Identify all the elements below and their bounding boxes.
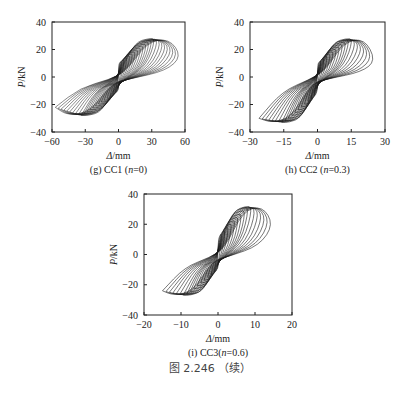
x-tick-label: 20 [287, 319, 297, 330]
hysteresis-loops [55, 39, 178, 116]
hysteresis-loops [163, 207, 271, 296]
y-tick-label: 20 [234, 44, 244, 55]
y-axis-label: P/kN [214, 66, 225, 88]
hysteresis-loops [259, 39, 373, 123]
x-axis-label: Δ/mm [304, 150, 329, 161]
chart-h: −30−1501530−40−2002040Δ/mmP/kN(h) CC2 (n… [214, 17, 390, 177]
y-tick-label: 40 [234, 17, 244, 28]
y-tick-label: 0 [133, 249, 138, 260]
x-tick-label: −60 [44, 136, 60, 147]
x-tick-label: 15 [346, 136, 356, 147]
y-tick-label: 0 [41, 72, 46, 83]
chart-i: −20−1001020−40−2002040Δ/mmP/kN(i) CC3(n=… [108, 189, 297, 360]
x-tick-label: 0 [116, 136, 121, 147]
y-tick-label: 40 [36, 17, 46, 28]
figure-canvas: −60−3003060−40−2002040Δ/mmP/kN(g) CC1 (n… [0, 0, 405, 402]
y-tick-label: 20 [128, 219, 138, 230]
x-tick-label: −20 [136, 319, 152, 330]
x-tick-label: −10 [173, 319, 189, 330]
x-tick-label: 10 [250, 319, 260, 330]
y-tick-label: −40 [122, 310, 138, 321]
y-tick-label: −40 [228, 127, 244, 138]
chart-subtitle: (i) CC3(n=0.6) [188, 347, 248, 359]
y-tick-label: 20 [36, 44, 46, 55]
y-axis-label: P/kN [16, 66, 27, 88]
x-tick-label: −30 [242, 136, 258, 147]
x-axis-label: Δ/mm [105, 150, 130, 161]
chart-g: −60−3003060−40−2002040Δ/mmP/kN(g) CC1 (n… [16, 17, 190, 177]
x-tick-label: 60 [180, 136, 190, 147]
y-tick-label: −20 [30, 99, 46, 110]
y-tick-label: −20 [228, 99, 244, 110]
y-axis-label: P/kN [108, 244, 119, 266]
x-tick-label: 30 [380, 136, 390, 147]
x-tick-label: −30 [77, 136, 93, 147]
figure-caption: 图 2.246 （续） [169, 361, 251, 375]
y-tick-label: −40 [30, 127, 46, 138]
x-tick-label: −15 [276, 136, 292, 147]
x-tick-label: 30 [147, 136, 157, 147]
x-tick-label: 0 [315, 136, 320, 147]
y-tick-label: 40 [128, 189, 138, 200]
y-tick-label: 0 [239, 72, 244, 83]
y-tick-label: −20 [122, 279, 138, 290]
x-axis-label: Δ/mm [205, 333, 230, 344]
chart-subtitle: (h) CC2 (n=0.3) [285, 164, 350, 176]
x-tick-label: 0 [216, 319, 221, 330]
chart-subtitle: (g) CC1 (n=0) [90, 164, 147, 176]
